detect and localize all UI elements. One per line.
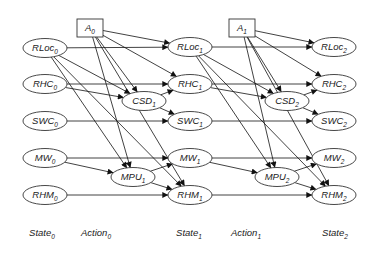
node-label-subscript: 1 — [197, 158, 201, 165]
edge-mpu1-to-mw1 — [150, 164, 172, 171]
edge-a0-to-rhc1 — [103, 35, 177, 76]
node-label-subscript: 2 — [342, 195, 347, 202]
node-label-subscript: 1 — [199, 195, 203, 202]
column-label-subscript: 1 — [198, 233, 202, 240]
node-label-base: RLoc — [321, 41, 343, 52]
node-label-subscript: 2 — [294, 101, 299, 108]
node-label-subscript: 0 — [91, 28, 95, 35]
edge-csd1-to-swc1 — [160, 108, 175, 115]
node-rloc2: RLoc2 — [312, 38, 356, 57]
node-label-base: MW — [35, 152, 53, 163]
node-label-base: SWC — [321, 115, 343, 126]
node-label-subscript: 0 — [54, 121, 58, 128]
edge-rloc0-to-rloc1 — [67, 47, 168, 48]
node-label-base: RHM — [32, 189, 54, 200]
node-mw0: MW0 — [23, 149, 67, 168]
node-label-base: RHM — [177, 189, 199, 200]
node-mw1: MW1 — [168, 149, 212, 168]
column-label-base: State — [29, 227, 51, 238]
node-swc2: SWC2 — [312, 112, 356, 131]
node-label-base: RLoc — [32, 42, 54, 53]
node-mw2: MW2 — [312, 149, 356, 168]
node-rhc2: RHC2 — [312, 75, 356, 94]
edge-csd2-to-swc2 — [303, 108, 319, 115]
node-label-subscript: 0 — [53, 84, 57, 91]
node-a1: A1 — [229, 19, 255, 37]
edge-csd2-to-rhc2 — [304, 90, 317, 95]
node-label-base: RHM — [321, 189, 343, 200]
node-mpu2: MPU2 — [255, 168, 299, 187]
node-rhc0: RHC0 — [23, 75, 67, 94]
column-label-subscript: 0 — [107, 233, 111, 240]
node-csd2: CSD2 — [265, 92, 309, 111]
node-label-subscript: 1 — [142, 177, 146, 184]
column-label-base: State — [176, 227, 198, 238]
node-rhm2: RHM2 — [312, 186, 356, 205]
node-label-subscript: 1 — [243, 28, 247, 35]
edge-a0-to-rhm1 — [95, 37, 184, 186]
column-label-action-1: Action1 — [230, 227, 261, 240]
column-label-subscript: 1 — [257, 233, 261, 240]
column-label-state-1: State1 — [176, 227, 202, 240]
node-rloc0: RLoc0 — [23, 39, 67, 58]
node-label-base: MPU — [121, 171, 142, 182]
node-swc0: SWC0 — [23, 112, 67, 131]
node-label-subscript: 2 — [342, 121, 347, 128]
edge-mpu1-to-rhm1 — [151, 183, 172, 190]
column-label-state-0: State0 — [29, 227, 55, 240]
node-rhm1: RHM1 — [168, 186, 212, 205]
node-label-base: RHC — [178, 78, 199, 89]
node-a0: A0 — [77, 19, 103, 37]
node-rloc1: RLoc1 — [168, 38, 212, 57]
column-label-subscript: 2 — [343, 233, 348, 240]
edge-mpu2-to-rhm2 — [295, 183, 316, 190]
node-label-subscript: 1 — [199, 121, 203, 128]
edge-csd1-to-rhc1 — [161, 90, 174, 95]
column-label-state-2: State2 — [322, 227, 348, 240]
edge-mw0-to-mpu1 — [65, 162, 114, 173]
node-label-subscript: 2 — [285, 177, 290, 184]
column-label-subscript: 0 — [51, 233, 55, 240]
node-label-subscript: 2 — [340, 158, 345, 165]
node-swc1: SWC1 — [168, 112, 212, 131]
node-rhm0: RHM0 — [23, 186, 67, 205]
node-label-subscript: 0 — [52, 158, 56, 165]
node-label-base: RHC — [33, 78, 54, 89]
node-csd1: CSD1 — [122, 92, 166, 111]
edge-rloc0-to-mpu1 — [51, 57, 127, 168]
node-label-base: A — [236, 22, 243, 33]
node-label-subscript: 0 — [54, 48, 58, 55]
node-label-subscript: 0 — [54, 195, 58, 202]
node-label-base: MW — [324, 152, 342, 163]
node-label-base: SWC — [177, 115, 199, 126]
node-label-subscript: 1 — [152, 101, 156, 108]
edge-rhc1-to-csd2 — [210, 88, 266, 98]
node-label-base: MPU — [265, 171, 286, 182]
node-label-subscript: 2 — [342, 47, 347, 54]
edge-rhc0-to-csd1 — [65, 88, 123, 98]
node-label-base: A — [84, 22, 91, 33]
node-label-subscript: 2 — [341, 84, 346, 91]
edge-rloc1-to-mpu2 — [196, 56, 271, 168]
node-label-base: CSD — [132, 95, 152, 106]
column-label-base: Action — [230, 227, 257, 238]
node-label-base: MW — [180, 152, 198, 163]
node-label-subscript: 1 — [198, 84, 202, 91]
edge-mpu2-to-mw2 — [294, 164, 316, 171]
node-label-subscript: 1 — [199, 47, 203, 54]
column-labels-layer: State0Action0State1Action1State2 — [29, 227, 348, 240]
node-rhc1: RHC1 — [168, 75, 212, 94]
edge-a1-to-csd2 — [248, 37, 282, 92]
column-label-action-0: Action0 — [80, 227, 111, 240]
node-label-base: SWC — [32, 115, 54, 126]
edge-mw1-to-mpu2 — [210, 162, 258, 172]
node-label-base: CSD — [275, 95, 295, 106]
column-label-base: Action — [80, 227, 107, 238]
edge-rloc1-to-csd2 — [204, 55, 274, 94]
column-label-base: State — [322, 227, 344, 238]
node-label-base: RHC — [322, 78, 343, 89]
node-label-base: RLoc — [177, 41, 199, 52]
node-mpu1: MPU1 — [111, 168, 155, 187]
dbn-diagram: A0RLoc0RHC0SWC0MW0RHM0CSD1MPU1RLoc1RHC1S… — [0, 0, 376, 256]
